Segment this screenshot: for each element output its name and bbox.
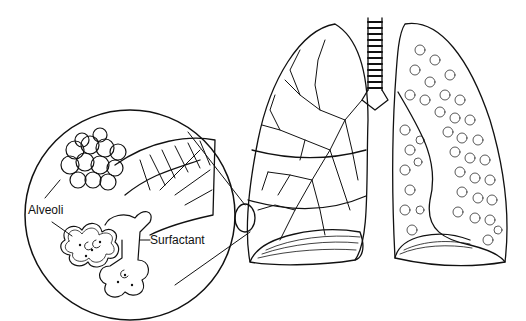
trachea [362,18,388,110]
right-lung [247,24,368,265]
alveoli-label: Alveoli [28,203,63,217]
magnified-region-marker [235,204,255,232]
callout-lines [175,132,250,285]
alveoli-leader-line-2 [52,222,72,236]
alveoli-leader-line [45,180,60,198]
alveoli-cross-section [61,212,151,297]
alveoli-cluster [61,128,126,190]
left-lung [393,23,507,265]
lungs-diagram [0,0,526,321]
surfactant-label: Surfactant [150,233,205,247]
